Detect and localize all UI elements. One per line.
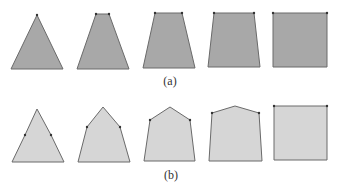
shape-square <box>274 106 327 160</box>
vertex-dot <box>119 126 121 128</box>
vertex-dot <box>258 112 260 114</box>
vertex-dot <box>253 12 255 14</box>
shape-pentagon-low-apex <box>209 106 262 161</box>
vertex-dot <box>36 14 38 16</box>
caption-a: (a) <box>150 74 190 89</box>
vertex-dot <box>181 12 183 14</box>
vertex-dot <box>189 119 191 121</box>
vertex-dot <box>273 105 275 107</box>
vertex-dot <box>108 13 110 15</box>
vertex-dot <box>154 12 156 14</box>
shape-triangle <box>11 15 63 69</box>
vertex-dot <box>272 12 274 14</box>
shape-pentagon-medium-apex <box>144 107 195 161</box>
vertex-dot <box>211 112 213 114</box>
shape-morph-figure <box>0 0 342 192</box>
vertex-dot <box>213 12 215 14</box>
vertex-dot <box>149 119 151 121</box>
shape-pentagon-tall-apex <box>78 107 130 162</box>
vertex-dot <box>50 134 52 136</box>
vertex-dot <box>95 13 97 15</box>
vertex-dot <box>86 126 88 128</box>
vertex-dot <box>326 105 328 107</box>
shape-triangle <box>12 109 64 162</box>
shape-trapezoid-narrow-top <box>77 14 129 69</box>
shape-square <box>273 13 327 67</box>
row-b-shapes <box>12 105 328 162</box>
row-a-shapes <box>11 12 328 69</box>
shape-trapezoid-wide-top <box>208 13 260 67</box>
caption-b: (b) <box>151 168 191 183</box>
vertex-dot <box>24 134 26 136</box>
shape-trapezoid-medium-top <box>143 13 195 68</box>
vertex-dot <box>326 12 328 14</box>
